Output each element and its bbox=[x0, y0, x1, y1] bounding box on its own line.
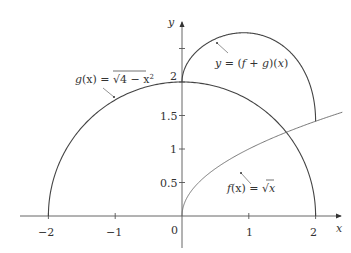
leader-f-dot bbox=[240, 172, 242, 174]
label-f: f(x) = √x bbox=[226, 182, 276, 195]
y-tick-label-1: 1 bbox=[170, 143, 177, 156]
x-tick-label-2: 2 bbox=[310, 226, 317, 239]
leader-g bbox=[103, 88, 114, 97]
x-tick-label-neg1: −1 bbox=[106, 226, 122, 239]
label-fg: y = (f + g)(x) bbox=[214, 57, 288, 70]
label-g: g(x) = √4 − x2 bbox=[75, 73, 154, 86]
y-tick-label-2: 2 bbox=[170, 70, 177, 83]
y-tick-label-0-5: 0.5 bbox=[160, 177, 178, 190]
leader-g-dot bbox=[113, 96, 115, 98]
function-graph: x y −2 −1 0 1 2 0.5 1 1.5 2 g(x) = √4 − … bbox=[0, 0, 351, 253]
curve-f-plus-g bbox=[182, 33, 316, 122]
y-axis-label: y bbox=[167, 16, 175, 29]
x-tick-label-1: 1 bbox=[246, 226, 253, 239]
leader-fg bbox=[217, 43, 228, 53]
y-tick-label-1-5: 1.5 bbox=[160, 110, 178, 123]
x-axis-label: x bbox=[336, 222, 343, 235]
leader-fg-dot bbox=[216, 42, 218, 44]
curve-f-sqrt bbox=[182, 112, 342, 216]
x-tick-label-0: 0 bbox=[171, 224, 178, 237]
x-tick-label-neg2: −2 bbox=[38, 226, 54, 239]
